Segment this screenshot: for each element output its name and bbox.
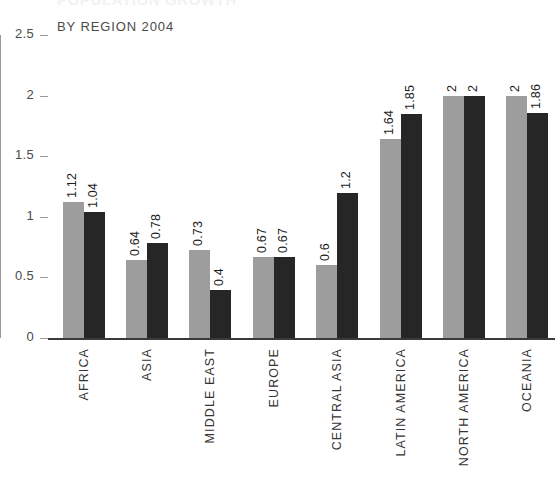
bar-group: 1.121.04: [63, 35, 105, 338]
bar-value-label: 1.64: [382, 110, 396, 135]
y-axis-tick-label: 0: [0, 329, 34, 344]
y-axis-tick: [40, 338, 48, 339]
bar: [253, 257, 274, 338]
bar-value-label: 0.73: [191, 220, 205, 245]
y-axis-tick-label: 1.5: [0, 147, 34, 162]
bar-group: 0.61.2: [316, 35, 358, 338]
category-label: NORTH AMERICA: [457, 348, 471, 466]
bar-group: 0.640.78: [126, 35, 168, 338]
bar: [380, 139, 401, 338]
bar: [316, 265, 337, 338]
category-label: OCEANIA: [520, 348, 534, 412]
bar-group: 0.670.67: [253, 35, 295, 338]
category-label: MIDDLE EAST: [203, 348, 217, 443]
y-axis-tick: [40, 217, 48, 218]
category-label: AFRICA: [77, 348, 91, 400]
bar-value-label: 0.4: [212, 268, 226, 286]
category-label: CENTRAL ASIA: [330, 348, 344, 450]
bar: [189, 250, 210, 338]
y-axis-tick-label: 1: [0, 208, 34, 223]
bar-value-label: 0.67: [276, 228, 290, 253]
y-axis-tick-label: 0.5: [0, 268, 34, 283]
category-label: LATIN AMERICA: [394, 348, 408, 457]
bar-value-label: 1.12: [65, 173, 79, 198]
bar: [464, 96, 485, 338]
y-axis-tick-label: 2: [0, 87, 34, 102]
category-label: EUROPE: [267, 348, 281, 407]
bar: [274, 257, 295, 338]
y-axis-tick-label: 2.5: [0, 26, 34, 41]
bar-value-label: 2: [466, 84, 480, 91]
bar-group: 1.641.85: [380, 35, 422, 338]
x-axis-line: [48, 338, 555, 340]
y-axis-tick: [40, 156, 48, 157]
bar-value-label: 1.86: [529, 83, 543, 108]
bar: [147, 243, 168, 338]
chart-subtitle: BY REGION 2004: [57, 19, 174, 34]
y-axis-line: [0, 35, 1, 338]
bar-value-label: 0.6: [318, 243, 332, 261]
y-axis-tick: [40, 277, 48, 278]
bar-value-label: 0.67: [255, 228, 269, 253]
bar: [84, 212, 105, 338]
y-axis-tick: [40, 96, 48, 97]
bar-value-label: 1.04: [86, 183, 100, 208]
chart-title: POPULATION GROWTH: [57, 0, 237, 8]
bar-value-label: 0.78: [149, 214, 163, 239]
bar: [126, 260, 147, 338]
bar-group: 21.86: [506, 35, 548, 338]
bar: [401, 114, 422, 338]
bar-value-label: 1.85: [403, 85, 417, 110]
bar-value-label: 2: [445, 84, 459, 91]
bar: [443, 96, 464, 338]
bar-chart: POPULATION GROWTH BY REGION 2004 00.511.…: [0, 0, 560, 489]
bar-group: 22: [443, 35, 485, 338]
bar: [337, 193, 358, 338]
bar-value-label: 0.64: [128, 231, 142, 256]
bar: [527, 113, 548, 338]
bar: [63, 202, 84, 338]
bar: [210, 290, 231, 338]
category-label: ASIA: [140, 348, 154, 381]
bar-value-label: 1.2: [339, 171, 353, 189]
bar-group: 0.730.4: [189, 35, 231, 338]
y-axis-tick: [40, 35, 48, 36]
bar-value-label: 2: [508, 84, 522, 91]
bar: [506, 96, 527, 338]
